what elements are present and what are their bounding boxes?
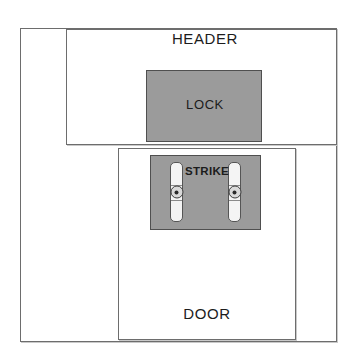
strike-label: STRIKE xyxy=(185,165,229,177)
lock-label: LOCK xyxy=(186,97,224,112)
strike-screw-plate-left xyxy=(170,162,183,222)
screw-head-icon xyxy=(228,186,241,199)
plate-seam-bottom xyxy=(171,200,182,201)
header-label: HEADER xyxy=(172,30,238,47)
door-label: DOOR xyxy=(183,305,230,322)
strike-screw-plate-right xyxy=(228,162,241,222)
diagram-canvas: HEADER DOOR LOCK STRIKE xyxy=(0,0,363,361)
plate-seam-bottom xyxy=(229,200,240,201)
screw-head-icon xyxy=(170,186,183,199)
screw-dot xyxy=(233,190,237,194)
screw-dot xyxy=(175,190,179,194)
